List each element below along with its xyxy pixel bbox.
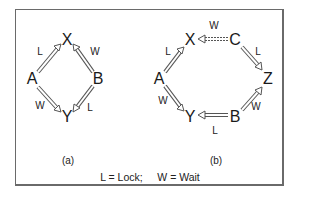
diagram-a-edges [38, 44, 93, 112]
node-b-C: C [229, 32, 241, 48]
node-b-X: X [185, 32, 196, 48]
edge-label-b-CZ: L [255, 47, 261, 57]
node-a-X: X [62, 32, 73, 48]
edge-label-a-AY: W [35, 101, 44, 111]
edge-label-a-BX: W [90, 47, 99, 57]
edge-label-b-AY: W [158, 96, 167, 106]
node-a-A: A [27, 71, 38, 87]
edge-label-a-AX: L [37, 47, 43, 57]
caption-b: (b) [210, 155, 222, 166]
diagram-b-edges [165, 35, 262, 119]
node-b-A: A [154, 71, 165, 87]
node-a-B: B [93, 71, 104, 87]
node-b-Y: Y [185, 109, 196, 125]
edge-label-a-BY: L [87, 103, 93, 113]
caption-a: (a) [62, 155, 74, 166]
edge-b-C-X-wait-arrow [198, 35, 228, 43]
edge-label-b-CX: W [209, 21, 218, 31]
edge-label-b-AX: L [165, 47, 171, 57]
node-b-Z: Z [263, 71, 273, 87]
edge-b-A-Y-wait-arrow [165, 86, 184, 111]
edge-label-b-BY: L [212, 126, 218, 136]
edge-label-b-BZ: W [251, 102, 260, 112]
legend: L = Lock; W = Wait [100, 171, 200, 183]
edge-b-B-Y-lock-arrow [198, 111, 228, 119]
node-b-B: B [230, 109, 241, 125]
node-a-Y: Y [62, 109, 73, 125]
